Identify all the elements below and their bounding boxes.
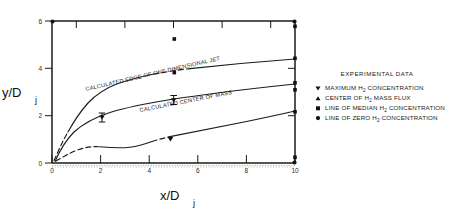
legend-label-2-pre: LINE OF MEDIAN H (325, 104, 384, 111)
svg-text:LINE OF ZERO H2 CONCENTRATION: LINE OF ZERO H2 CONCENTRATION (325, 114, 438, 123)
x-ticklabel-4: 4 (147, 167, 151, 174)
curve-label-center: CALCULATED CENTER OF MASS (139, 89, 233, 113)
y-axis-title: y/D j (2, 85, 37, 105)
legend-item-line-of-median-h2-concentration: LINE OF MEDIAN H2 CONCENTRATION (316, 104, 445, 113)
x-ticklabel-10: 10 (291, 167, 299, 174)
plot-frame (52, 21, 295, 163)
legend-item-maximum-h2-concentration: MAXIMUM H2 CONCENTRATION (316, 84, 424, 93)
legend: EXPERIMENTAL DATA MAXIMUM H2 CONCENTRATI… (316, 70, 446, 123)
legend-label-3-pre: LINE OF ZERO H (325, 114, 377, 121)
legend-label-0-post: CONCENTRATION (366, 84, 424, 91)
data-point-square-upper (173, 37, 177, 41)
series-zero-dash-left (56, 147, 100, 161)
x-axis-ticks-top (76, 21, 270, 28)
y-axis-ticks-right (288, 68, 295, 115)
y-axis-title-main: y/D (2, 85, 22, 100)
x-axis-title: x/D j (160, 188, 195, 208)
x-axis-title-sub: j (192, 198, 195, 208)
x-ticklabel-0: 0 (50, 167, 54, 174)
svg-text:LINE OF MEDIAN H2 CONCENTRATIO: LINE OF MEDIAN H2 CONCENTRATION (325, 104, 445, 113)
data-point-edge-4 (293, 88, 297, 92)
data-point-edge-2 (293, 57, 297, 61)
chart-svg: 0 2 4 6 8 10 0 2 4 6 y/D j x/D j (0, 0, 468, 216)
curve-label-center-text: CALCULATED CENTER OF MASS (139, 89, 233, 113)
curve-label-edge: CALCULATED EDGE OF ONE DIMENSIONAL JET (85, 55, 221, 92)
y-ticklabel-4: 4 (38, 65, 42, 72)
data-point-square-mid (173, 71, 177, 75)
data-point-triangle-down (168, 137, 174, 142)
y-ticklabel-2: 2 (38, 112, 42, 119)
y-ticklabel-6: 6 (38, 18, 42, 25)
axis-shading (52, 166, 295, 168)
series-zero-solid-mid (100, 142, 152, 148)
frame-corner-marks (50, 19, 296, 164)
legend-label-3-post: CONCENTRATION (380, 114, 438, 121)
figure-container: 0 2 4 6 8 10 0 2 4 6 y/D j x/D j (0, 0, 468, 216)
legend-label-1-pre: CENTER OF H (325, 94, 369, 101)
y-axis-title-sub: j (34, 95, 37, 105)
series-zero-dash-mid (152, 137, 170, 142)
legend-title: EXPERIMENTAL DATA (341, 70, 414, 77)
svg-text:MAXIMUM H2 CONCENTRATION: MAXIMUM H2 CONCENTRATION (325, 84, 424, 93)
y-axis-ticklabels: 0 2 4 6 (38, 18, 42, 167)
legend-item-line-of-zero-h2-concentration: LINE OF ZERO H2 CONCENTRATION (316, 114, 438, 123)
data-markers (99, 37, 177, 141)
circle-icon (316, 116, 320, 120)
data-point-edge-6 (293, 156, 297, 160)
data-point-edge-1 (293, 25, 297, 29)
legend-item-center-of-h2-mass-flux: CENTER OF H2 MASS FLUX (316, 94, 411, 103)
series-edge-leadin (54, 132, 68, 161)
data-point-edge-5 (293, 110, 297, 114)
x-ticklabel-8: 8 (245, 167, 249, 174)
x-axis-ticks (52, 155, 295, 163)
svg-text:CENTER OF H2 MASS FLUX: CENTER OF H2 MASS FLUX (325, 94, 411, 103)
data-point-edge-3 (293, 81, 297, 85)
legend-label-0-pre: MAXIMUM H (325, 84, 363, 91)
x-axis-ticklabels: 0 2 4 6 8 10 (50, 167, 299, 174)
series-zero-concentration (56, 111, 295, 161)
y-ticklabel-0: 0 (38, 160, 42, 167)
x-ticklabel-6: 6 (196, 167, 200, 174)
series-zero-solid-right (170, 111, 295, 137)
triangle-up-icon (316, 96, 321, 100)
x-ticklabel-2: 2 (99, 167, 103, 174)
legend-label-2-post: CONCENTRATION (387, 104, 445, 111)
triangle-down-icon (316, 87, 321, 91)
y-axis-ticks (45, 21, 52, 163)
square-icon (316, 106, 320, 110)
legend-label-1-post: MASS FLUX (372, 94, 411, 101)
curve-label-edge-text: CALCULATED EDGE OF ONE DIMENSIONAL JET (85, 55, 221, 92)
x-axis-title-main: x/D (160, 188, 180, 203)
